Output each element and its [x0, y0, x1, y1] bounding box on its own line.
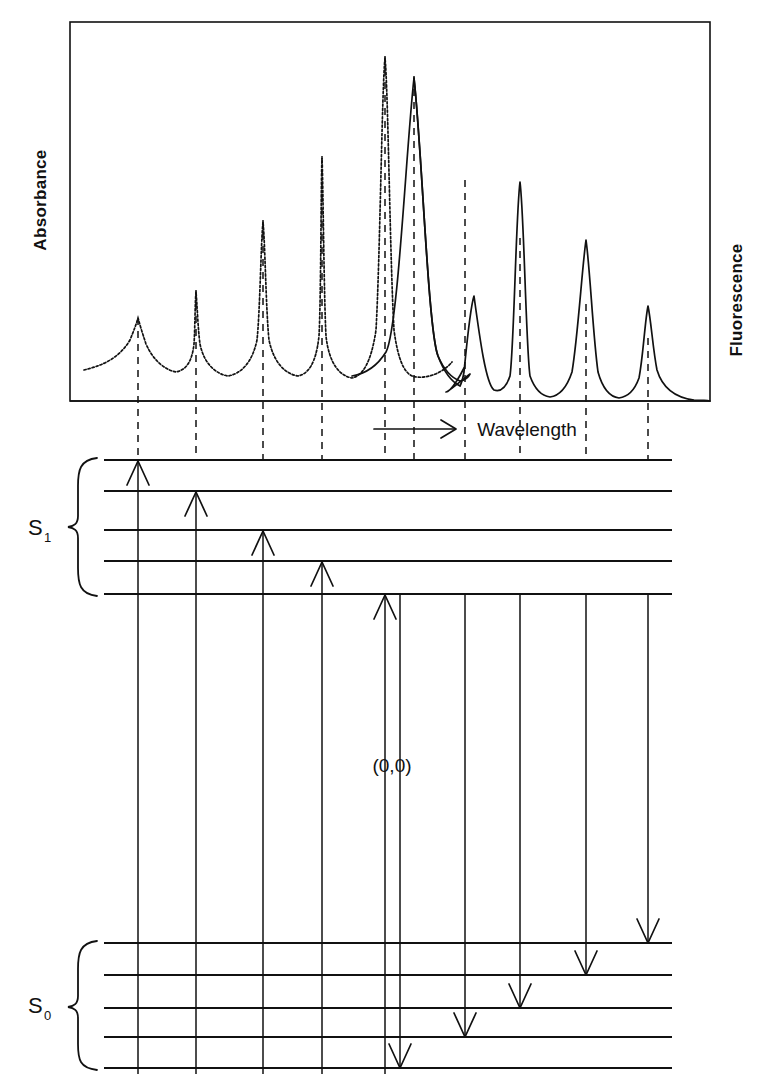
right-axis-label: Fluorescence: [727, 243, 746, 356]
left-axis-label: Absorbance: [31, 149, 50, 250]
s0-subscript: 0: [44, 1008, 51, 1023]
absorption-transition-0-3: [185, 492, 207, 1074]
emission-transitions-group: [389, 594, 659, 1068]
wavelength-arrow-icon: [374, 420, 456, 438]
absorption-transition-0-2: [252, 531, 274, 1074]
excited-state-manifold: S 1: [28, 458, 672, 596]
s1-label: S: [28, 515, 43, 540]
s0-brace: [68, 941, 97, 1070]
fluorescence-curve: [352, 78, 470, 392]
figure-root: Absorbance Fluorescence Wavelength: [0, 0, 769, 1092]
absorbance-curve: [84, 58, 452, 378]
absorption-transition-0-4: [127, 461, 149, 1074]
emission-transition-0-3: [575, 594, 597, 975]
emission-transition-0-1: [454, 594, 476, 1037]
emission-transition-0-2: [509, 594, 531, 1008]
ground-state-manifold: S 0: [28, 941, 672, 1070]
spectra-energy-diagram: Absorbance Fluorescence Wavelength: [0, 0, 769, 1092]
s1-brace: [68, 458, 97, 596]
emission-transition-0-0: [389, 594, 411, 1068]
emission-transition-0-4: [637, 594, 659, 943]
wavelength-label: Wavelength: [477, 419, 577, 440]
wavelength-axis-annotation: Wavelength: [374, 419, 577, 440]
fluorescence-curve-right: [414, 78, 710, 401]
absorption-transitions-group: [127, 461, 396, 1074]
absorption-transition-0-1: [311, 562, 333, 1074]
origin-transition-label: (0,0): [372, 755, 411, 776]
s0-label: S: [28, 993, 43, 1018]
s1-subscript: 1: [44, 530, 51, 545]
absorption-transition-0-0: [374, 595, 396, 1074]
